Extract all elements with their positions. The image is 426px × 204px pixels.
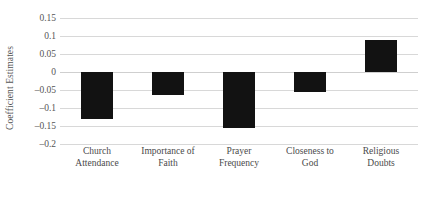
- y-tick-label: 0.05: [8, 49, 56, 59]
- x-tick-label-line: Religious: [333, 146, 426, 158]
- y-tick-label: –0.15: [8, 121, 56, 131]
- bar: [223, 72, 255, 128]
- bar: [81, 72, 113, 119]
- y-tick-label: –0.1: [8, 103, 56, 113]
- gridline: [60, 144, 418, 145]
- x-tick-label: ReligiousDoubts: [333, 146, 426, 169]
- bar: [365, 40, 397, 72]
- y-tick-label: 0.15: [8, 13, 56, 23]
- x-tick-label-line: Doubts: [333, 158, 426, 170]
- gridline: [60, 18, 418, 19]
- bar: [294, 72, 326, 92]
- bar-chart: Coefficient Estimates 0.150.10.050–0.05–…: [0, 0, 426, 204]
- x-axis-tick-labels: ChurchAttendanceImportance ofFaithPrayer…: [60, 146, 418, 204]
- bar: [152, 72, 184, 95]
- y-tick-label: 0: [8, 67, 56, 77]
- gridline: [60, 36, 418, 37]
- y-tick-label: –0.05: [8, 85, 56, 95]
- y-tick-label: 0.1: [8, 31, 56, 41]
